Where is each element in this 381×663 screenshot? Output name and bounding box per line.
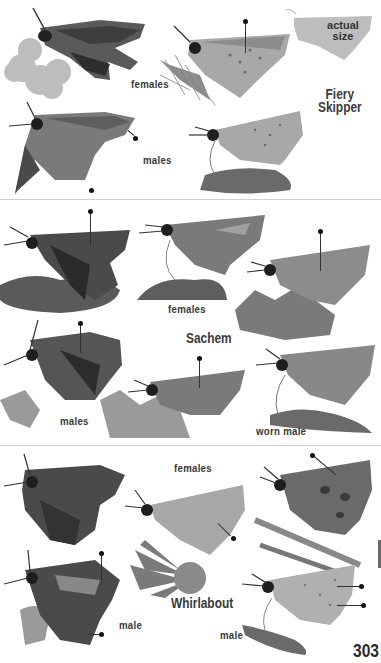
pointer-line bbox=[90, 211, 91, 246]
butterfly-photo-whirlabout-female-1 bbox=[0, 450, 130, 550]
pointer-dot bbox=[99, 551, 104, 556]
butterfly-photo-whirlabout-male-1 bbox=[0, 540, 125, 655]
section-divider bbox=[0, 445, 381, 446]
species-name-fiery-skipper: Fiery Skipper bbox=[318, 88, 362, 114]
pointer-dot bbox=[88, 209, 93, 214]
species-name-whirlabout: Whirlabout bbox=[171, 597, 233, 610]
label-male-right: male bbox=[220, 629, 243, 641]
pointer-line bbox=[245, 21, 246, 53]
section-divider bbox=[0, 199, 381, 200]
pointer-dot bbox=[359, 584, 364, 589]
pointer-dot bbox=[318, 229, 323, 234]
butterfly-photo-fiery-female-1 bbox=[0, 0, 150, 100]
pointer-line bbox=[101, 553, 102, 585]
pointer-line bbox=[320, 231, 321, 271]
pointer-dot bbox=[197, 356, 202, 361]
pointer-line bbox=[337, 586, 360, 587]
label-females: females bbox=[131, 78, 169, 90]
actual-size-label: actual size bbox=[318, 20, 368, 42]
pointer-dot bbox=[89, 188, 94, 193]
pointer-dot bbox=[361, 603, 366, 608]
butterfly-photo-sachem-male-2 bbox=[100, 360, 250, 440]
butterfly-photo-sachem-female-3 bbox=[235, 240, 370, 340]
butterfly-photo-sachem-female-1 bbox=[0, 205, 135, 315]
label-females: females bbox=[168, 303, 206, 315]
pointer-line bbox=[337, 605, 362, 606]
butterfly-photo-sachem-worn-male bbox=[250, 335, 380, 435]
butterfly-photo-whirlabout-male-2 bbox=[240, 560, 365, 660]
pointer-dot bbox=[78, 321, 83, 326]
pointer-line bbox=[80, 323, 81, 353]
butterfly-photo-fiery-male-1 bbox=[5, 100, 140, 195]
label-females: females bbox=[174, 462, 212, 474]
label-worn-male: worn male bbox=[256, 425, 306, 437]
page-number: 303 bbox=[353, 640, 379, 662]
pointer-dot bbox=[99, 632, 104, 637]
butterfly-photo-fiery-female-2 bbox=[160, 20, 300, 110]
species-name-line2: Skipper bbox=[318, 101, 362, 114]
pointer-line bbox=[199, 358, 200, 388]
pointer-dot bbox=[310, 453, 315, 458]
pointer-dot bbox=[133, 136, 138, 141]
butterfly-photo-fiery-male-2 bbox=[185, 105, 305, 195]
pointer-dot bbox=[231, 536, 236, 541]
actual-size-line2: size bbox=[318, 31, 368, 42]
butterfly-photo-whirlabout-female-3 bbox=[250, 455, 375, 565]
label-males: males bbox=[143, 154, 172, 166]
pointer-dot bbox=[243, 19, 248, 24]
species-name-sachem: Sachem bbox=[186, 332, 232, 345]
label-males: males bbox=[60, 415, 89, 427]
label-male-left: male bbox=[119, 619, 142, 631]
